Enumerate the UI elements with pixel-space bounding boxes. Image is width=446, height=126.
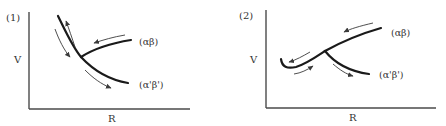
panel-2: (2) V R (αβ) (α'β') — [239, 10, 436, 123]
panel-2-arrow-alpha-beta-left — [344, 23, 373, 32]
panel-1-alpha-beta-curve — [81, 40, 131, 57]
panel-1: (1) V R (αβ) (α'β') — [6, 12, 190, 124]
panel-2-alpha-prime-beta-prime-curve — [325, 51, 369, 74]
panel-2-x-axis-label: R — [349, 112, 357, 123]
panel-2-alpha-prime-beta-prime-label: (α'β') — [379, 69, 404, 80]
panel-2-alpha-beta-curve — [281, 28, 381, 68]
panel-1-arrow-alpha-prime-beta-prime-right — [85, 70, 111, 88]
panel-2-y-axis-label: V — [249, 54, 258, 65]
panel-1-x-axis-label: R — [108, 113, 116, 124]
panel-1-y-axis-label: V — [13, 54, 22, 65]
panel-2-label: (2) — [239, 10, 253, 21]
panel-1-alpha-beta-label: (αβ) — [139, 36, 158, 47]
panel-1-alpha-prime-beta-prime-label: (α'β') — [139, 79, 164, 90]
panel-2-arrow-toward-minimum — [289, 52, 310, 62]
panel-2-alpha-beta-label: (αβ) — [391, 27, 410, 38]
panel-1-label: (1) — [6, 12, 20, 23]
diagram-canvas: (1) V R (αβ) (α'β') (2) V R (αβ) (α' — [0, 0, 446, 126]
